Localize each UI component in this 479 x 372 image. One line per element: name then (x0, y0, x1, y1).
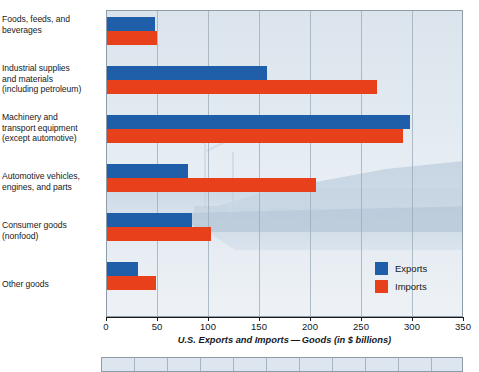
x-tick-label-350: 350 (455, 321, 471, 332)
category-label-line: Other goods (2, 279, 101, 290)
bar-exports-4 (106, 213, 192, 227)
x-tick-label-0: 0 (103, 321, 108, 332)
legend-label-exports: Exports (395, 263, 427, 274)
category-label-line: transport equipment (2, 123, 101, 134)
legend-swatch-imports (375, 280, 388, 293)
category-label-line: (nonfood) (2, 231, 101, 242)
x-tick-label-250: 250 (353, 321, 369, 332)
category-label-line: engines, and parts (2, 182, 101, 193)
category-label-column: Foods, feeds, and beverages Industrial s… (0, 0, 101, 318)
bar-imports-5 (106, 276, 156, 290)
legend-item-exports[interactable]: Exports (375, 262, 467, 275)
chart-legend: Exports Imports (375, 262, 467, 298)
category-label-line: (except automotive) (2, 133, 101, 144)
bar-imports-0 (106, 31, 157, 45)
category-label-line: Industrial supplies (2, 63, 101, 74)
category-label-line: and materials (2, 74, 101, 85)
bar-exports-3 (106, 164, 188, 178)
gridline-150 (259, 10, 260, 317)
category-label-other-goods: Other goods (2, 279, 101, 290)
x-tick-label-50: 50 (152, 321, 163, 332)
category-label-line: beverages (2, 25, 101, 36)
bar-exports-1 (106, 66, 267, 80)
gridline-100 (208, 10, 209, 317)
x-axis-line (106, 317, 463, 318)
legend-item-imports[interactable]: Imports (375, 280, 467, 293)
category-label-machinery: Machinery and transport equipment (excep… (2, 112, 101, 144)
background-sky (106, 10, 463, 188)
category-label-consumer-goods: Consumer goods (nonfood) (2, 220, 101, 241)
next-chart-clipped (101, 357, 463, 372)
category-label-foods: Foods, feeds, and beverages (2, 14, 101, 35)
category-label-automotive: Automotive vehicles, engines, and parts (2, 171, 101, 192)
category-label-line: (including petroleum) (2, 84, 101, 95)
bar-exports-5 (106, 262, 138, 276)
bar-imports-1 (106, 80, 377, 94)
bar-imports-2 (106, 129, 403, 143)
chart-page: Foods, feeds, and beverages Industrial s… (0, 0, 479, 372)
gridline-200 (310, 10, 311, 317)
bar-imports-3 (106, 178, 316, 192)
category-label-line: Foods, feeds, and (2, 14, 101, 25)
bar-exports-0 (106, 17, 155, 31)
legend-label-imports: Imports (395, 281, 427, 292)
bar-exports-2 (106, 115, 410, 129)
category-label-line: Automotive vehicles, (2, 171, 101, 182)
x-axis-title: U.S. Exports and Imports — Goods (in $ b… (106, 335, 463, 345)
gridline-250 (361, 10, 362, 317)
x-tick-label-300: 300 (404, 321, 420, 332)
x-tick-label-150: 150 (251, 321, 267, 332)
category-label-line: Machinery and (2, 112, 101, 123)
legend-swatch-exports (375, 262, 388, 275)
x-tick-label-200: 200 (302, 321, 318, 332)
x-tick-label-100: 100 (200, 321, 216, 332)
bar-imports-4 (106, 227, 211, 241)
category-label-industrial-supplies: Industrial supplies and materials (inclu… (2, 63, 101, 95)
category-label-line: Consumer goods (2, 220, 101, 231)
